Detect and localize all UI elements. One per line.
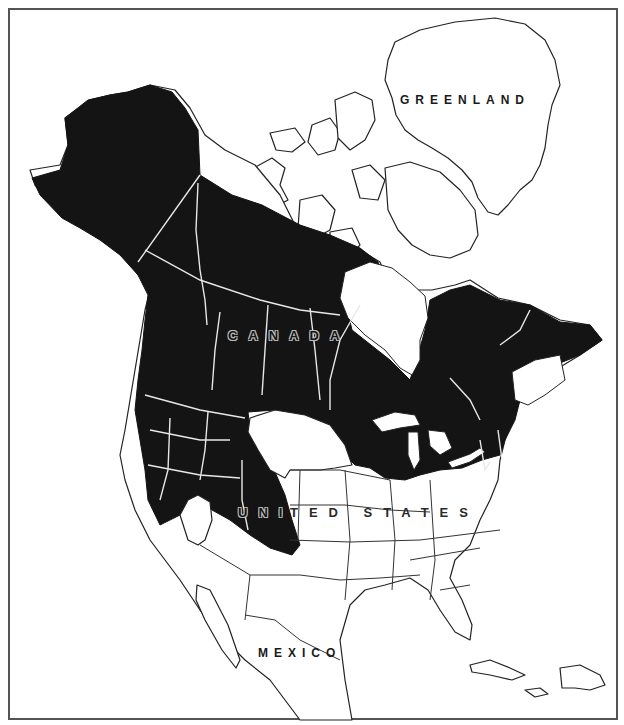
hispaniola <box>560 665 605 690</box>
arctic-island <box>385 162 478 258</box>
cuba <box>470 660 525 680</box>
arctic-island <box>270 128 305 152</box>
arctic-island <box>335 92 375 150</box>
jamaica <box>525 688 548 697</box>
arctic-island <box>352 165 385 200</box>
arctic-island <box>308 118 340 155</box>
label-canada: CANADA <box>228 328 350 343</box>
north-america-map <box>0 0 624 725</box>
label-united-states-part2: TED STATES <box>290 505 479 520</box>
label-greenland: GREENLAND <box>400 93 530 107</box>
label-united-states-part1: UNI <box>238 505 293 520</box>
label-mexico: MEXICO <box>258 646 341 660</box>
